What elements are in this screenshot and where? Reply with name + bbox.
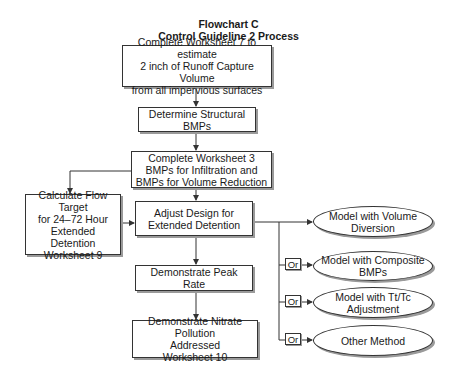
node-label: Calculate Flow Target for 24–72 Hour Ext… — [28, 189, 118, 261]
node-peak-rate: Demonstrate Peak Rate — [135, 265, 253, 291]
option-label: Model with Volume Diversion — [329, 210, 417, 234]
node-label: Adjust Design for Extended Detention — [148, 207, 240, 231]
option-label: Model with Composite BMPs — [321, 254, 424, 278]
node-label: Complete Worksheet 3 BMPs for Infiltrati… — [136, 152, 267, 188]
option-label: Other Method — [341, 335, 405, 347]
option-other-method: Other Method — [313, 325, 433, 356]
node-worksheet3: Complete Worksheet 3 BMPs for Infiltrati… — [131, 151, 272, 188]
or-connector: Or — [285, 333, 301, 345]
option-label: Model with Tt/Tc Adjustment — [335, 291, 411, 315]
node-label: Determine Structural BMPs — [149, 108, 245, 132]
option-composite-bmps: Model with Composite BMPs — [313, 251, 433, 281]
node-flow-target: Calculate Flow Target for 24–72 Hour Ext… — [25, 194, 121, 255]
or-connector: Or — [285, 258, 301, 270]
node-adjust-design: Adjust Design for Extended Detention — [135, 201, 253, 236]
node-label: Demonstrate Peak Rate — [138, 266, 250, 290]
node-nitrate: Demonstrate Nitrate Pollution Addressed … — [132, 320, 258, 358]
node-label: Complete Worksheet 7 to estimate 2 inch … — [125, 36, 269, 96]
option-volume-diversion: Model with Volume Diversion — [313, 206, 433, 237]
option-tt-tc-adjustment: Model with Tt/Tc Adjustment — [313, 287, 433, 318]
node-label: Demonstrate Nitrate Pollution Addressed … — [135, 315, 255, 363]
or-connector: Or — [285, 295, 301, 307]
node-structural-bmps: Determine Structural BMPs — [138, 107, 256, 132]
node-worksheet7: Complete Worksheet 7 to estimate 2 inch … — [122, 45, 272, 87]
